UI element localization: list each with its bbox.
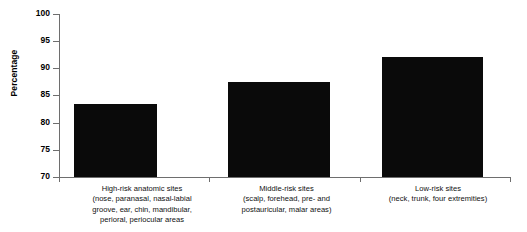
x-tick-3 [510, 177, 511, 182]
x-axis-line [59, 177, 511, 178]
y-tick-85 [53, 95, 60, 96]
bar-chart: Percentage 100 95 90 85 80 75 70 High-ri… [0, 0, 527, 232]
x-category-label-1-line-0: Middle-risk sites [204, 184, 369, 194]
x-category-label-1: Middle-risk sites (scalp, forehead, pre-… [204, 184, 369, 215]
y-tick-label-85: 85 [18, 90, 50, 99]
x-category-label-1-line-1: (scalp, forehead, pre- and [204, 194, 369, 204]
bar-middle-risk [228, 82, 330, 177]
x-category-label-2: Low-risk sites (neck, trunk, four extrem… [352, 184, 524, 205]
y-tick-label-75: 75 [18, 145, 50, 154]
x-tick-2 [360, 177, 361, 182]
x-category-label-2-line-1: (neck, trunk, four extremities) [352, 194, 524, 204]
x-category-label-1-line-2: postauricular, malar areas) [204, 205, 369, 215]
x-tick-1 [209, 177, 210, 182]
y-tick-100 [53, 14, 60, 15]
x-category-label-0-line-3: perioral, periocular areas [52, 215, 232, 225]
y-tick-label-90: 90 [18, 63, 50, 72]
bar-high-risk [74, 104, 157, 177]
y-tick-label-80: 80 [18, 118, 50, 127]
y-tick-label-100: 100 [18, 9, 50, 18]
y-tick-90 [53, 68, 60, 69]
x-tick-0 [59, 177, 60, 182]
y-tick-label-95: 95 [18, 36, 50, 45]
bar-low-risk [382, 57, 483, 177]
y-axis-line [59, 14, 60, 178]
y-tick-75 [53, 150, 60, 151]
y-tick-label-70: 70 [18, 172, 50, 181]
y-tick-95 [53, 41, 60, 42]
y-tick-80 [53, 123, 60, 124]
x-category-label-2-line-0: Low-risk sites [352, 184, 524, 194]
